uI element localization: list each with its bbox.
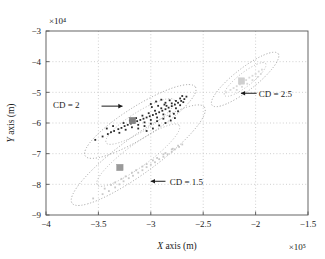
scatter-point [150,164,152,166]
scatter-point [125,175,127,177]
scatter-point [146,117,148,119]
scatter-point [137,172,139,174]
scatter-point [118,183,120,185]
scatter-point [146,130,148,132]
scatter-point [174,148,176,150]
y-tick-label: −8 [31,180,41,190]
scatter-point [245,79,247,81]
scatter-point [165,102,167,104]
scatter-point [167,153,169,155]
scatter-point [169,115,171,117]
scatter-point [169,110,171,112]
scatter-point [108,190,110,192]
x-axis-exponent: ×10⁵ [289,242,306,252]
scatter-point [158,158,160,160]
scatter-point [135,169,137,171]
scatter-point [175,100,177,102]
y-tick-label: −4 [31,57,41,67]
x-tick-label: −2.5 [195,219,212,229]
y-tick-label: −6 [31,118,41,128]
x-tick-label: −1.5 [300,219,317,229]
scatter-point [260,73,262,75]
scatter-point [144,125,146,127]
scatter-point [177,145,179,147]
y-tick-label: −9 [31,210,41,220]
scatter-point [160,107,162,109]
scatter-point [225,91,227,93]
scatter-point [128,177,130,179]
scatter-point [152,128,154,130]
scatter-point [236,85,238,87]
scatter-point [158,111,160,113]
scatter-point [123,122,125,124]
scatter-point [233,87,235,89]
scatter-point [246,83,248,85]
scatter-point [258,71,260,73]
scatter-point [177,110,179,112]
scatter-point [110,184,112,186]
scatter-point [181,95,183,97]
scatter-point [137,124,139,126]
scatter-point [230,89,232,91]
y-tick-label: −3 [31,26,41,36]
scatter-point [180,100,182,102]
scatter-point [175,107,177,109]
scatter-point [162,114,164,116]
scatter-point [121,127,123,129]
scatter-point [164,104,166,106]
scatter-point [182,101,184,103]
scatter-point [125,129,127,131]
scatter-point [170,120,172,122]
scatter-point [155,113,157,115]
x-tick-label: −4 [41,219,51,229]
scatter-point [137,128,139,130]
scatter-point [150,119,152,121]
scatter-point [172,148,174,150]
scatter-point [152,160,154,162]
scatter-point [106,128,108,130]
scatter-point [165,122,167,124]
scatter-point [155,101,157,103]
scatter-point [161,110,163,112]
scatter-point [157,105,159,107]
y-axis-exponent: ×10⁴ [49,16,66,26]
scatter-point [174,104,176,106]
scatter-point [94,139,96,141]
scatter-point [136,120,138,122]
scatter-point [102,193,104,195]
scatter-point [162,118,164,120]
scatter-point [114,187,116,189]
scatter-point [156,120,158,122]
y-tick-label: −7 [31,149,41,159]
scatter-point [112,125,114,127]
centroid-marker [129,117,135,123]
scatter-point [177,102,179,104]
scatter-point [131,172,133,174]
scatter-point [160,99,162,101]
scatter-point [131,126,133,128]
scatter-point [110,131,112,133]
scatter-point [107,133,109,135]
scatter-point [166,105,168,107]
scatter-point [156,157,158,159]
scatter-point [179,104,181,106]
scatter-point [181,144,183,146]
scatter-point [104,188,106,190]
scatter-point [117,128,119,130]
scatter-point [162,153,164,155]
scatter-point [236,89,238,91]
scatter-point [113,130,115,132]
scatter-point [171,105,173,107]
scatter-point [143,118,145,120]
scatter-point [165,152,167,154]
scatter-point [151,106,153,108]
scatter-point [102,136,104,138]
scatter-point [162,156,164,158]
scatter-point [124,125,126,127]
scatter-point [169,99,171,101]
scatter-point [156,117,158,119]
scatter-point [171,102,173,104]
scatter-point [146,163,148,165]
scatter-point [142,169,144,171]
scatter-point [139,119,141,121]
